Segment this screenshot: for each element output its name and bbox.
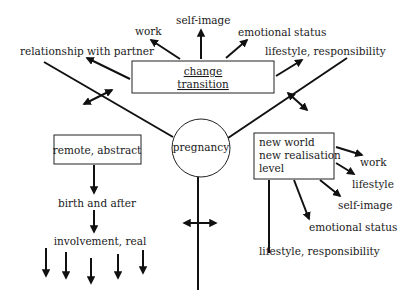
new-realisation-label: new realisation — [259, 149, 341, 161]
emotional-status-right-label: emotional status — [309, 221, 397, 233]
work-right-label: work — [360, 156, 387, 168]
self-image-top-label: self-image — [176, 14, 231, 26]
new-world-label: new world — [259, 136, 315, 148]
level-label: level — [259, 162, 285, 174]
arrow-to-lifestyle — [276, 60, 302, 76]
change-label: change — [184, 65, 223, 77]
left-double-arrow — [84, 90, 112, 104]
arrow-to-relationship — [87, 58, 130, 79]
pregnancy-label: pregnancy — [173, 141, 229, 153]
lifestyle-responsibility-right-label: lifestyle, responsibility — [259, 245, 380, 257]
arrow-to-lifestyle-right — [336, 163, 354, 174]
emotional-status-top-label: emotional status — [238, 26, 326, 38]
birth-and-after-label: birth and after — [58, 197, 137, 209]
right-double-arrow — [288, 93, 307, 110]
relationship-with-partner-label: relationship with partner — [20, 45, 155, 57]
arrow-to-emotional-right — [294, 180, 309, 219]
lifestyle-right-label: lifestyle — [352, 178, 394, 190]
arrow-to-self-image-right — [320, 180, 340, 196]
lifestyle-responsibility-top-label: lifestyle, responsibility — [265, 45, 386, 57]
remote-abstract-label: remote, abstract — [53, 144, 142, 156]
involvement-real-label: involvement, real — [54, 235, 147, 247]
pregnancy-transition-diagram: change transition relationship with part… — [0, 0, 408, 302]
self-image-right-label: self-image — [338, 199, 393, 211]
arrow-to-emotional-status — [226, 40, 247, 58]
work-top-label: work — [135, 25, 162, 37]
arrow-to-work — [151, 40, 180, 59]
transition-label: transition — [177, 78, 229, 90]
